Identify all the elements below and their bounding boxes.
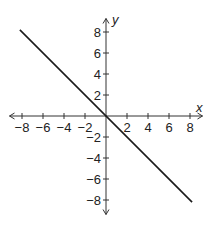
y-tick-label: −2 (86, 130, 101, 145)
x-tick-label: −4 (57, 120, 72, 135)
x-tick-label: −6 (36, 120, 51, 135)
coordinate-plane: −8−6−4−22468−8−6−4−22468 x y (0, 0, 213, 230)
x-axis-label: x (195, 100, 203, 115)
y-tick-label: 6 (94, 46, 101, 61)
y-tick-label: −8 (86, 193, 101, 208)
y-tick-label: 8 (94, 25, 101, 40)
x-tick-label: −8 (15, 120, 30, 135)
y-tick-label: −6 (86, 172, 101, 187)
y-tick-label: −4 (86, 151, 101, 166)
x-tick-label: 2 (123, 120, 130, 135)
x-tick-label: 6 (165, 120, 172, 135)
y-tick-label: 2 (94, 88, 101, 103)
x-tick-label: 4 (144, 120, 151, 135)
y-tick-label: 4 (94, 67, 101, 82)
y-axis-label: y (111, 12, 120, 27)
x-tick-label: 8 (186, 120, 193, 135)
